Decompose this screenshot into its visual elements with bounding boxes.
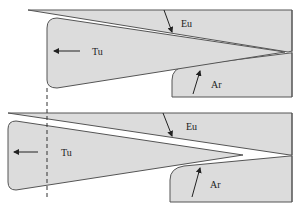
label-arabia-top: Ar	[211, 79, 222, 90]
bottom-panel: Tu Eu Ar	[8, 113, 292, 202]
plate-extrusion-diagram: Tu Eu Ar Tu Eu Ar	[0, 0, 299, 207]
top-panel: Tu Eu Ar	[28, 10, 292, 97]
label-arabia-bottom: Ar	[210, 179, 221, 190]
label-eurasia-bottom: Eu	[186, 121, 197, 132]
label-eurasia-top: Eu	[181, 18, 192, 29]
label-turkey-bottom: Tu	[61, 147, 72, 158]
label-turkey-top: Tu	[92, 46, 103, 57]
